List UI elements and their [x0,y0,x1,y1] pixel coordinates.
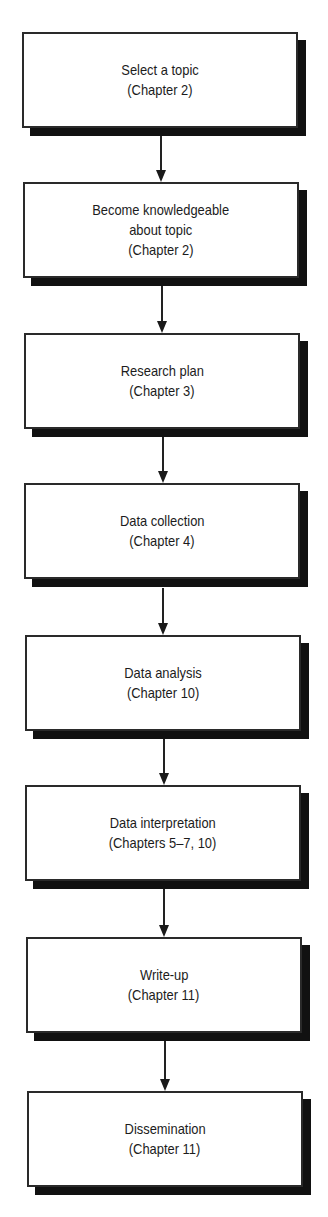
arrow-down-icon [155,136,167,182]
step-chapter: (Chapter 11) [128,985,199,1005]
step-title: Dissemination [124,1119,205,1139]
step-chapter: (Chapter 2) [127,80,192,100]
step-research-plan: Research plan (Chapter 3) [24,333,300,429]
step-box: Data collection (Chapter 4) [24,483,300,579]
arrowhead-icon [160,1079,170,1091]
step-box: Research plan (Chapter 3) [24,333,300,429]
step-write-up: Write-up (Chapter 11) [26,937,302,1033]
step-box: Dissemination (Chapter 11) [27,1091,303,1187]
step-chapter: (Chapter 10) [127,683,199,703]
step-box: Write-up (Chapter 11) [26,937,302,1033]
step-data-analysis: Data analysis (Chapter 10) [25,635,301,731]
step-data-interpretation: Data interpretation (Chapters 5–7, 10) [25,785,301,881]
arrowhead-icon [159,925,169,937]
step-chapter: (Chapter 11) [129,1139,200,1159]
step-title: Data interpretation [110,813,216,833]
arrow-down-icon [156,286,168,333]
step-box: Become knowledgeable about topic (Chapte… [23,182,299,278]
step-become-knowledgeable: Become knowledgeable about topic (Chapte… [23,182,299,278]
step-dissemination: Dissemination (Chapter 11) [27,1091,303,1187]
step-title-continued: about topic [129,220,192,240]
step-chapter: (Chapter 2) [128,240,193,260]
step-title: Data collection [120,511,205,531]
arrow-down-icon [158,739,170,785]
step-title: Research plan [120,361,203,381]
arrowhead-icon [158,471,168,483]
step-title: Become knowledgeable [93,200,230,220]
arrowhead-icon [159,773,169,785]
step-chapter: (Chapter 3) [129,381,194,401]
step-data-collection: Data collection (Chapter 4) [24,483,300,579]
step-title: Data analysis [124,663,201,683]
step-box: Select a topic (Chapter 2) [22,32,298,128]
arrowhead-icon [156,170,166,182]
arrowhead-icon [158,623,168,635]
arrow-down-icon [159,1041,171,1091]
step-chapter: (Chapters 5–7, 10) [109,833,217,853]
step-chapter: (Chapter 4) [129,531,194,551]
step-box: Data analysis (Chapter 10) [25,635,301,731]
step-select-topic: Select a topic (Chapter 2) [22,32,298,128]
step-box: Data interpretation (Chapters 5–7, 10) [25,785,301,881]
step-title: Write-up [140,965,189,985]
arrowhead-icon [157,321,167,333]
arrow-down-icon [158,889,170,937]
step-title: Select a topic [121,60,198,80]
arrow-down-icon [157,588,169,635]
arrow-down-icon [157,437,169,483]
